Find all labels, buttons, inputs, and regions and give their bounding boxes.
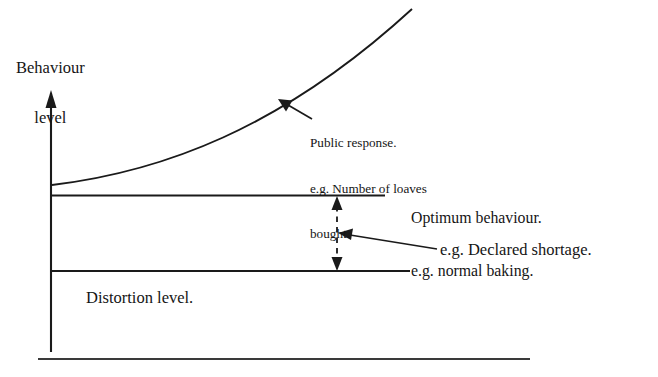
public-response-line2: e.g. Number of loaves (310, 182, 427, 195)
public-response-line1: Public response. (310, 136, 427, 149)
behaviour-level-diagram: Behaviour level Public response. e.g. Nu… (0, 0, 658, 377)
public-response-line3: bought. (310, 227, 427, 240)
y-axis-title: Behaviour level (16, 27, 85, 159)
declared-shortage-annotation: e.g. Declared shortage. (440, 242, 592, 259)
y-axis-title-line2: level (16, 110, 85, 127)
optimum-line1: Optimum behaviour. (411, 210, 542, 226)
public-response-annotation: Public response. e.g. Number of loaves b… (310, 110, 427, 272)
y-axis-title-line1: Behaviour (16, 60, 85, 77)
distortion-level-annotation: Distortion level. (86, 290, 193, 307)
optimum-line2: e.g. normal baking. (411, 263, 542, 279)
public-response-leader-arrow (278, 99, 312, 119)
